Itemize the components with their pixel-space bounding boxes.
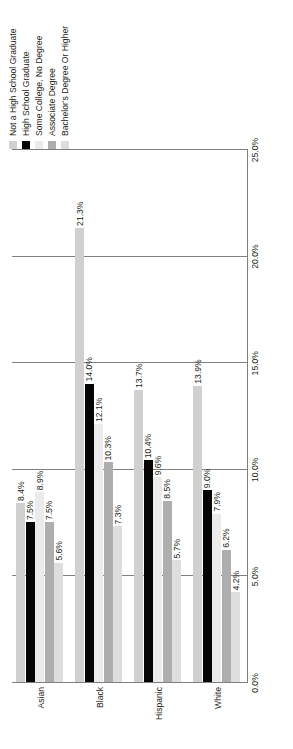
- bar[interactable]: [203, 490, 212, 682]
- bar[interactable]: [75, 228, 84, 682]
- bar[interactable]: [16, 503, 25, 682]
- bar[interactable]: [222, 550, 231, 682]
- bar[interactable]: [212, 514, 221, 682]
- bar[interactable]: [134, 390, 143, 682]
- bar-row: 13.9%: [193, 150, 202, 682]
- x-axis-tick-labels: 0.0%5.0%10.0%15.0%20.0%25.0%: [250, 150, 266, 683]
- bar[interactable]: [35, 492, 44, 682]
- bar-group: 13.9%9.0%7.9%6.2%4.2%: [193, 150, 241, 682]
- bar[interactable]: [104, 462, 113, 682]
- legend-swatch-icon: [9, 141, 17, 149]
- bar-value-label: 13.9%: [193, 359, 203, 385]
- bar[interactable]: [54, 563, 63, 682]
- legend-swatch-icon: [61, 141, 69, 149]
- bar-chart-figure: Not a High School GraduateHigh School Gr…: [0, 0, 293, 749]
- bar[interactable]: [193, 386, 202, 682]
- x-tick-label: 15.0%: [250, 351, 260, 375]
- y-axis-line: [12, 682, 248, 683]
- legend-item[interactable]: Associate Degree: [45, 6, 58, 149]
- bar-value-label: 7.5%: [44, 501, 54, 523]
- category-label: Black: [95, 687, 105, 727]
- legend-item[interactable]: Some College, No Degree: [32, 6, 45, 149]
- bar-value-label: 7.9%: [212, 492, 222, 514]
- legend-swatch-icon: [22, 141, 30, 149]
- bar[interactable]: [172, 560, 181, 682]
- bar-row: 10.3%: [104, 150, 113, 682]
- category-label: White: [213, 687, 223, 727]
- bar-value-label: 9.6%: [153, 456, 163, 478]
- x-tick-label: 10.0%: [250, 458, 260, 482]
- legend-item[interactable]: Not a High School Graduate: [6, 6, 19, 149]
- x-tick-label: 25.0%: [250, 138, 260, 162]
- bar-row: 8.4%: [16, 150, 25, 682]
- bar-value-label: 8.4%: [16, 481, 26, 503]
- bar[interactable]: [231, 592, 240, 682]
- bar-value-label: 12.1%: [94, 398, 104, 424]
- plot-area: 8.4%7.5%8.9%7.5%5.6%Asian21.3%14.0%12.1%…: [12, 150, 248, 683]
- bar-group: 13.7%10.4%9.6%8.5%5.7%: [134, 150, 182, 682]
- bar-row: 12.1%: [94, 150, 103, 682]
- legend-item-label: Bachelor's Degree Or Higher: [60, 26, 70, 136]
- bar-value-label: 4.2%: [231, 571, 241, 593]
- bar-row: 21.3%: [75, 150, 84, 682]
- bar-value-label: 21.3%: [75, 202, 85, 228]
- category-label: Asian: [36, 687, 46, 727]
- bar-group: 21.3%14.0%12.1%10.3%7.3%: [75, 150, 123, 682]
- legend-swatch-icon: [35, 141, 43, 149]
- bar-row: 8.5%: [163, 150, 172, 682]
- bar-row: 7.3%: [113, 150, 122, 682]
- bar-value-label: 8.9%: [35, 471, 45, 493]
- bar-row: 13.7%: [134, 150, 143, 682]
- bar-value-label: 14.0%: [84, 357, 94, 383]
- bar-value-label: 8.5%: [162, 479, 172, 501]
- bar-group: 8.4%7.5%8.9%7.5%5.6%: [16, 150, 64, 682]
- bar[interactable]: [45, 522, 54, 682]
- bar-row: 8.9%: [35, 150, 44, 682]
- legend-item-label: High School Graduate: [21, 51, 31, 136]
- category-label: Hispanic: [154, 687, 164, 727]
- chart-stage: Not a High School GraduateHigh School Gr…: [0, 0, 293, 749]
- chart-legend: Not a High School GraduateHigh School Gr…: [6, 6, 71, 149]
- x-tick-label: 5.0%: [250, 567, 260, 587]
- bar-value-label: 10.4%: [143, 434, 153, 460]
- bar-value-label: 6.2%: [221, 528, 231, 550]
- bar-row: 7.9%: [212, 150, 221, 682]
- legend-item[interactable]: Bachelor's Degree Or Higher: [58, 6, 71, 149]
- bar-row: 9.0%: [203, 150, 212, 682]
- bar[interactable]: [85, 384, 94, 682]
- bar[interactable]: [153, 477, 162, 682]
- bar-row: 5.7%: [172, 150, 181, 682]
- bar[interactable]: [26, 522, 35, 682]
- bar-value-label: 10.3%: [103, 436, 113, 462]
- bar-value-label: 9.0%: [202, 469, 212, 491]
- legend-item-label: Some College, No Degree: [34, 36, 44, 136]
- bar-row: 9.6%: [153, 150, 162, 682]
- legend-swatch-icon: [48, 141, 56, 149]
- bar-row: 7.5%: [45, 150, 54, 682]
- bar-row: 5.6%: [54, 150, 63, 682]
- bar[interactable]: [94, 424, 103, 682]
- bar[interactable]: [113, 526, 122, 682]
- bar-value-label: 5.7%: [172, 539, 182, 561]
- bar-value-label: 13.7%: [134, 364, 144, 390]
- bar-row: 6.2%: [222, 150, 231, 682]
- bar-row: 4.2%: [231, 150, 240, 682]
- x-axis-baseline: [247, 150, 248, 683]
- x-tick-label: 0.0%: [250, 673, 260, 693]
- bar-value-label: 5.6%: [54, 541, 64, 563]
- bar-value-label: 7.5%: [25, 501, 35, 523]
- bar-row: 14.0%: [85, 150, 94, 682]
- bar-row: 10.4%: [144, 150, 153, 682]
- bar-value-label: 7.3%: [113, 505, 123, 527]
- legend-item-label: Associate Degree: [47, 68, 57, 136]
- legend-item-label: Not a High School Graduate: [8, 29, 18, 137]
- x-tick-label: 20.0%: [250, 244, 260, 268]
- legend-item[interactable]: High School Graduate: [19, 6, 32, 149]
- bar[interactable]: [144, 460, 153, 682]
- bar-row: 7.5%: [26, 150, 35, 682]
- bar[interactable]: [163, 501, 172, 682]
